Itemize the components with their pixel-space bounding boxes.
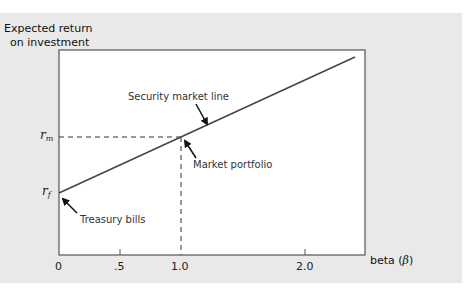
y-tick-rf: rf — [42, 184, 53, 199]
chart-svg: Expected return on investment 0 .5 1.0 2… — [0, 0, 471, 295]
sml-annotation: Security market line — [128, 91, 229, 102]
x-tick-05: .5 — [114, 260, 125, 273]
treasury-bills-annotation: Treasury bills — [79, 214, 145, 225]
x-axis-label: beta (β) — [370, 254, 413, 267]
y-tick-rm: rm — [40, 128, 54, 143]
x-tick-20: 2.0 — [296, 260, 314, 273]
market-portfolio-annotation: Market portfolio — [193, 159, 272, 170]
x-tick-0: 0 — [55, 260, 62, 273]
y-axis-label-line2: on investment — [10, 36, 90, 49]
x-tick-10: 1.0 — [171, 260, 189, 273]
y-axis-label-line1: Expected return — [4, 22, 92, 35]
